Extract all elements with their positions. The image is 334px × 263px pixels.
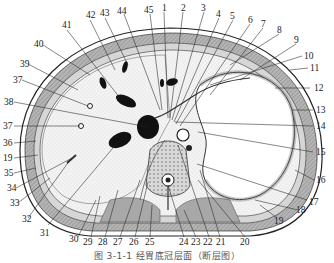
label-15: 15	[316, 147, 326, 157]
label-30: 30	[69, 234, 79, 244]
label-4: 4	[216, 9, 221, 19]
label-19-left: 19	[3, 153, 13, 163]
label-8: 8	[277, 25, 282, 35]
label-5: 5	[230, 11, 235, 21]
label-28: 28	[98, 237, 108, 247]
label-20: 20	[240, 237, 250, 247]
label-24: 24	[179, 237, 189, 247]
label-33: 33	[10, 198, 20, 208]
label-44: 44	[117, 6, 127, 16]
label-9: 9	[294, 35, 299, 45]
label-25: 25	[145, 237, 155, 247]
label-35: 35	[4, 168, 14, 178]
label-12: 12	[314, 83, 324, 93]
label-2: 2	[181, 3, 186, 13]
label-6: 6	[248, 15, 253, 25]
vessel-small-2	[160, 79, 164, 87]
label-16: 16	[316, 175, 326, 185]
label-10: 10	[304, 51, 314, 61]
label-21: 21	[216, 237, 226, 247]
label-31: 31	[40, 228, 50, 238]
label-17: 17	[309, 197, 319, 207]
label-40: 40	[34, 39, 44, 49]
label-26: 26	[129, 237, 139, 247]
label-37-lower: 37	[3, 121, 13, 131]
label-39: 39	[20, 59, 30, 69]
vessel	[186, 145, 192, 151]
label-22: 22	[203, 237, 213, 247]
label-36: 36	[3, 138, 13, 148]
label-1: 1	[162, 3, 167, 13]
label-45: 45	[144, 5, 154, 15]
label-38: 38	[4, 97, 14, 107]
anatomical-cross-section-diagram: 41 42 43 44 45 1 2 3 4 5 6 7 8 9 10 11 1…	[0, 0, 334, 263]
bile-duct	[88, 104, 93, 109]
label-41: 41	[62, 20, 72, 30]
label-27: 27	[113, 237, 123, 247]
label-42: 42	[86, 10, 96, 20]
label-32: 32	[22, 214, 32, 224]
figure-caption: 图 3-1-1 经胃底冠层面（断层图）	[0, 249, 334, 262]
label-18: 18	[296, 205, 306, 215]
label-43: 43	[100, 8, 110, 18]
label-13: 13	[316, 105, 326, 115]
label-7: 7	[261, 19, 266, 29]
label-29: 29	[83, 237, 93, 247]
label-19-right: 19	[274, 216, 284, 226]
label-23: 23	[191, 237, 201, 247]
label-34: 34	[7, 183, 17, 193]
label-14: 14	[316, 121, 326, 131]
label-3: 3	[201, 3, 206, 13]
label-37-upper: 37	[13, 75, 23, 85]
aorta	[177, 129, 189, 141]
label-11: 11	[310, 63, 319, 73]
